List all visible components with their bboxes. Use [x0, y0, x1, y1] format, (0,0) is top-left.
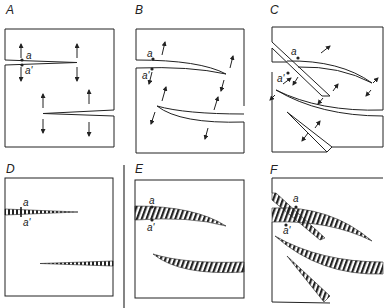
svg-text:a: a	[291, 46, 297, 57]
panel-c: C a a'	[270, 3, 383, 152]
panel-label-e: E	[135, 162, 144, 176]
panel-e: E a a'	[135, 162, 244, 298]
svg-text:a': a'	[283, 225, 292, 236]
panel-label-c: C	[270, 3, 279, 17]
panel-d: D a a'	[5, 162, 113, 296]
svg-text:a': a'	[142, 70, 151, 81]
panel-b: B a a'	[135, 3, 244, 153]
svg-text:a: a	[293, 193, 299, 204]
svg-text:a: a	[149, 195, 155, 206]
panel-f: F a a'	[270, 163, 383, 303]
svg-text:a: a	[23, 197, 29, 208]
svg-text:a': a'	[147, 222, 156, 233]
panel-label-a: A	[5, 3, 14, 17]
panel-label-b: B	[135, 3, 143, 17]
panel-label-f: F	[270, 163, 278, 177]
point-a-label: a	[26, 50, 32, 61]
point-a-prime-label: a'	[25, 65, 34, 76]
svg-text:a': a'	[277, 73, 286, 84]
svg-text:a': a'	[23, 217, 32, 228]
figure-canvas: A a a' B a a' C	[0, 0, 384, 308]
panel-label-d: D	[6, 162, 15, 176]
svg-text:a: a	[147, 48, 153, 59]
panel-a: A a a'	[5, 3, 114, 147]
